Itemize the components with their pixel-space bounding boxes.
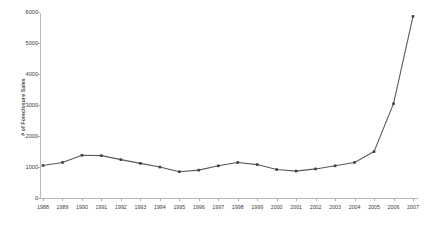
x-tick-mark xyxy=(140,198,141,201)
x-tick-label: 1996 xyxy=(193,204,205,210)
x-tick-mark xyxy=(413,198,414,201)
y-tick-mark xyxy=(37,136,40,137)
data-point-marker xyxy=(373,150,376,153)
x-tick-label: 1992 xyxy=(115,204,127,210)
x-tick-label: 1997 xyxy=(212,204,224,210)
x-tick-label: 1990 xyxy=(76,204,88,210)
y-tick-mark xyxy=(37,74,40,75)
x-tick-label: 1998 xyxy=(232,204,244,210)
data-point-marker xyxy=(139,162,142,165)
x-tick-mark xyxy=(62,198,63,201)
x-tick-mark xyxy=(121,198,122,201)
x-tick-label: 2007 xyxy=(407,204,419,210)
x-tick-mark xyxy=(335,198,336,201)
data-point-marker xyxy=(100,154,103,157)
x-tick-mark xyxy=(160,198,161,201)
data-point-marker xyxy=(392,102,395,105)
x-tick-mark xyxy=(199,198,200,201)
data-point-marker xyxy=(275,168,278,171)
data-point-marker xyxy=(61,161,64,164)
x-tick-mark xyxy=(296,198,297,201)
y-tick-mark xyxy=(37,12,40,13)
data-point-marker xyxy=(197,169,200,172)
x-tick-mark xyxy=(179,198,180,201)
x-tick-mark xyxy=(238,198,239,201)
y-tick-mark xyxy=(37,105,40,106)
y-tick-mark xyxy=(37,167,40,168)
x-tick-mark xyxy=(257,198,258,201)
y-tick-mark xyxy=(37,198,40,199)
x-tick-label: 1999 xyxy=(251,204,263,210)
data-point-marker xyxy=(159,166,162,169)
x-tick-mark xyxy=(218,198,219,201)
x-tick-mark xyxy=(394,198,395,201)
x-tick-mark xyxy=(277,198,278,201)
data-point-marker xyxy=(256,163,259,166)
x-tick-label: 1995 xyxy=(173,204,185,210)
data-point-marker xyxy=(120,158,123,161)
data-point-marker xyxy=(42,164,45,167)
series-line-foreclosure-sales xyxy=(43,16,413,171)
x-tick-label: 2001 xyxy=(290,204,302,210)
data-point-marker xyxy=(236,161,239,164)
data-point-marker xyxy=(314,168,317,171)
x-tick-label: 1993 xyxy=(134,204,146,210)
data-point-marker xyxy=(217,165,220,168)
x-tick-mark xyxy=(355,198,356,201)
x-tick-mark xyxy=(374,198,375,201)
x-tick-mark xyxy=(316,198,317,201)
x-tick-label: 2000 xyxy=(271,204,283,210)
data-point-marker xyxy=(81,154,84,157)
x-tick-label: 1988 xyxy=(37,204,49,210)
y-tick-mark xyxy=(37,43,40,44)
data-point-marker xyxy=(334,165,337,168)
data-point-marker xyxy=(353,161,356,164)
x-tick-label: 2003 xyxy=(329,204,341,210)
data-point-marker xyxy=(178,170,181,173)
x-tick-label: 2002 xyxy=(310,204,322,210)
x-tick-label: 1994 xyxy=(154,204,166,210)
x-tick-mark xyxy=(43,198,44,201)
x-tick-mark xyxy=(82,198,83,201)
x-tick-label: 2004 xyxy=(349,204,361,210)
series-markers xyxy=(42,15,415,173)
x-tick-label: 1989 xyxy=(57,204,69,210)
x-tick-label: 1991 xyxy=(96,204,108,210)
series-layer xyxy=(0,0,431,228)
x-tick-mark xyxy=(101,198,102,201)
x-tick-label: 2006 xyxy=(388,204,400,210)
foreclosure-sales-line-chart: # of Foreclosure Sales 01000200030004000… xyxy=(0,0,431,228)
x-tick-label: 2005 xyxy=(368,204,380,210)
data-point-marker xyxy=(412,15,415,18)
data-point-marker xyxy=(295,170,298,173)
